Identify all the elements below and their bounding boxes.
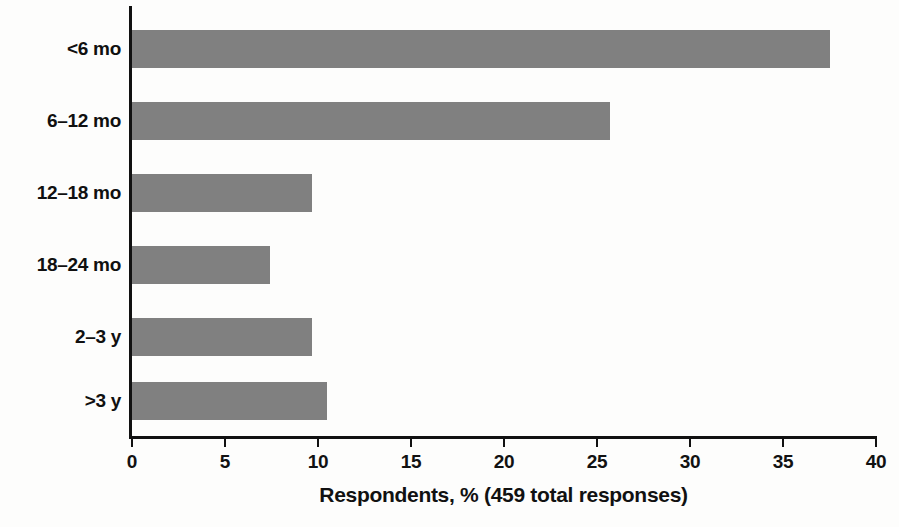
category-label-1: 6–12 mo xyxy=(0,110,121,132)
x-tick-0 xyxy=(131,437,133,447)
bar-4 xyxy=(132,318,312,356)
x-tick-6 xyxy=(689,437,691,447)
bar-0 xyxy=(132,30,830,68)
bar-3 xyxy=(132,246,270,284)
x-tick-label-4: 20 xyxy=(494,451,515,473)
x-tick-7 xyxy=(782,437,784,447)
x-tick-8 xyxy=(875,437,877,447)
category-label-4: 2–3 y xyxy=(0,326,121,348)
x-tick-4 xyxy=(503,437,505,447)
x-tick-label-2: 10 xyxy=(308,451,329,473)
x-tick-2 xyxy=(317,437,319,447)
x-tick-label-1: 5 xyxy=(220,451,230,473)
x-axis-title: Respondents, % (459 total responses) xyxy=(131,483,876,507)
x-tick-label-5: 25 xyxy=(587,451,608,473)
bars-layer xyxy=(0,0,899,527)
bar-2 xyxy=(132,174,312,212)
x-tick-label-0: 0 xyxy=(127,451,137,473)
x-tick-label-7: 35 xyxy=(773,451,794,473)
category-label-2: 12–18 mo xyxy=(0,182,121,204)
x-tick-label-3: 15 xyxy=(401,451,422,473)
bar-chart: <6 mo 6–12 mo 12–18 mo 18–24 mo 2–3 y >3… xyxy=(0,0,899,527)
bar-1 xyxy=(132,102,610,140)
bar-5 xyxy=(132,382,327,420)
x-tick-label-6: 30 xyxy=(680,451,701,473)
category-label-0: <6 mo xyxy=(0,38,121,60)
category-label-5: >3 y xyxy=(0,390,121,412)
x-tick-1 xyxy=(224,437,226,447)
x-tick-3 xyxy=(410,437,412,447)
category-label-3: 18–24 mo xyxy=(0,254,121,276)
x-tick-5 xyxy=(596,437,598,447)
x-tick-label-8: 40 xyxy=(866,451,887,473)
